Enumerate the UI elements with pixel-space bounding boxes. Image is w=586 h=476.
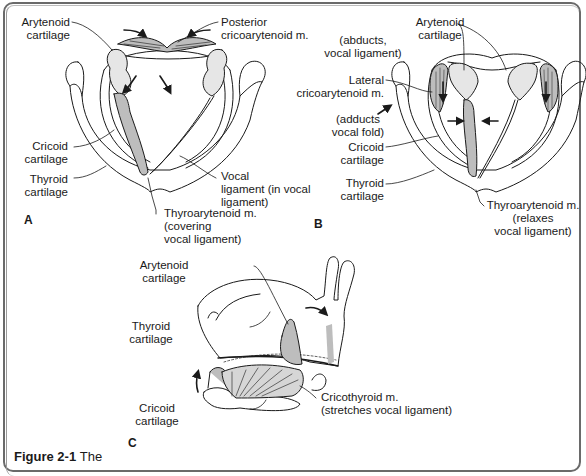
panel-a-thyroarytenoid <box>114 93 148 175</box>
label-line: vocal ligament) <box>484 225 582 238</box>
label-line: vocal ligament) <box>164 233 257 246</box>
label-line: cartilage <box>18 29 70 42</box>
label-line: vocal ligament) <box>318 47 408 60</box>
label-line: vocal fold) <box>326 126 390 139</box>
label-line: Thyroid <box>330 177 384 190</box>
label-line: (relaxes <box>484 212 582 225</box>
panel-c-cricothyroid-label: Cricothyroid m. (stretches vocal ligamen… <box>321 391 452 417</box>
label-line: Arytenoid <box>138 259 190 272</box>
label-line: Thyroarytenoid m. <box>484 199 582 212</box>
panel-b-right-lateral-cricoarytenoid <box>540 64 558 112</box>
label-line: cartilage <box>124 333 178 346</box>
label-line: (abducts, <box>318 34 408 47</box>
label-line: Posterior <box>221 16 309 29</box>
caption-prefix: Figure 2-1 <box>14 449 76 464</box>
label-line: Thyroid <box>18 173 68 186</box>
panel-a-cricoid-label: Cricoid cartilage <box>18 140 68 166</box>
label-line: ligament (in vocal <box>221 183 310 196</box>
caption-text: The <box>80 449 102 464</box>
label-line: Arytenoid <box>18 16 70 29</box>
label-line: (stretches vocal ligament) <box>321 404 452 417</box>
label-line: cricoarytenoid m. <box>221 29 309 42</box>
label-line: cartilage <box>402 29 478 42</box>
panel-a-posterior-cricoarytenoid-label: Posterior cricoarytenoid m. <box>221 16 309 42</box>
label-line: Cricoid <box>330 141 384 154</box>
panel-b-arytenoid-label: Arytenoid cartilage <box>402 16 478 42</box>
panel-b-left-lateral-cricoarytenoid <box>430 64 448 112</box>
label-line: cartilage <box>18 186 68 199</box>
panel-b-letter: B <box>314 217 323 231</box>
panel-a-letter: A <box>24 213 33 227</box>
panel-b-thyroarytenoid <box>463 100 476 177</box>
label-line: Thyroarytenoid m. <box>164 207 257 220</box>
panel-b-lateral-cricoarytenoid-label: Lateral cricoarytenoid m. <box>296 74 384 100</box>
figure-caption: Figure 2-1 The <box>14 449 102 464</box>
panel-a-vocal-ligament <box>150 96 214 174</box>
panel-b-cricoid-label: Cricoid cartilage <box>330 141 384 167</box>
label-line: cartilage <box>138 272 190 285</box>
label-line: Vocal <box>221 170 310 183</box>
panel-c-arytenoid <box>281 319 303 364</box>
panel-b-left-arytenoid <box>449 63 478 100</box>
label-line: (covering <box>164 220 257 233</box>
label-line: Lateral <box>296 74 384 87</box>
label-line: Cricoid <box>130 402 184 415</box>
panel-a-vocal-ligament-label: Vocal ligament (in vocal ligament) <box>221 170 310 209</box>
label-line: Cricoid <box>18 140 68 153</box>
panel-c-thyroid-label: Thyroid cartilage <box>124 320 178 346</box>
label-line: cricoarytenoid m. <box>296 87 384 100</box>
panel-b-right-arytenoid <box>508 63 537 100</box>
panel-a-arytenoid-label: Arytenoid cartilage <box>18 16 70 42</box>
label-line: Arytenoid <box>402 16 478 29</box>
label-line: cartilage <box>330 190 384 203</box>
panel-b-thyroarytenoid-label: Thyroarytenoid m. (relaxes vocal ligamen… <box>484 199 582 238</box>
panel-c-drawing <box>197 257 355 411</box>
panel-a-thyroarytenoid-label: Thyroarytenoid m. (covering vocal ligame… <box>164 207 257 246</box>
label-line: (adducts <box>326 113 390 126</box>
panel-c-arytenoid-label: Arytenoid cartilage <box>138 259 190 285</box>
label-line: cartilage <box>18 153 68 166</box>
label-line: cartilage <box>330 154 384 167</box>
panel-c-letter: C <box>128 436 137 450</box>
label-line: Thyroid <box>124 320 178 333</box>
label-line: cartilage <box>130 415 184 428</box>
panel-a-thyroid-label: Thyroid cartilage <box>18 173 68 199</box>
panel-b-drawing <box>378 24 586 206</box>
panel-c-cricothyroid <box>222 365 303 398</box>
panel-c-cricoid-label: Cricoid cartilage <box>130 402 184 428</box>
panel-a-posterior-cricoarytenoid-action: (abducts, vocal ligament) <box>318 34 408 60</box>
label-line: Cricothyroid m. <box>321 391 452 404</box>
panel-b-thyroid-label: Thyroid cartilage <box>330 177 384 203</box>
panel-b-lateral-cricoarytenoid-action: (adducts vocal fold) <box>326 113 390 139</box>
